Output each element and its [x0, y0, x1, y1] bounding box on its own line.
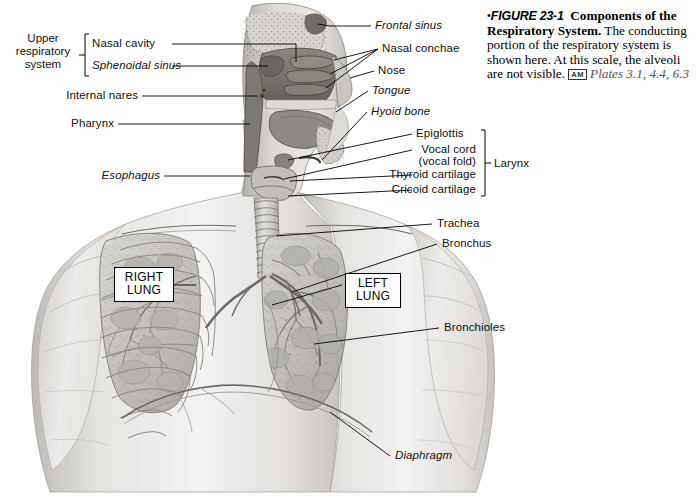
label-tongue: Tongue — [372, 84, 411, 97]
label-frontal-sinus: Frontal sinus — [375, 19, 442, 32]
label-nasal-conchae: Nasal conchae — [382, 42, 459, 55]
label-vocal-fold: (vocal fold) — [396, 155, 476, 168]
group-label-larynx: Larynx — [494, 157, 529, 170]
label-trachea: Trachea — [437, 217, 479, 230]
label-sphenoidal-sinus: Sphenoidal sinus — [92, 59, 181, 72]
label-hyoid-bone: Hyoid bone — [371, 105, 430, 118]
label-epiglottis: Epiglottis — [416, 127, 464, 140]
label-nasal-cavity: Nasal cavity — [92, 37, 155, 50]
am-badge: AM — [568, 69, 586, 80]
upper-respiratory-system-line3: system — [10, 58, 76, 71]
figure-number: FIGURE 23-1 — [491, 9, 564, 23]
label-pharynx: Pharynx — [20, 117, 114, 130]
right-lung-line2: LUNG — [121, 284, 167, 297]
group-label-upper-respiratory-system: Upper respiratory system — [10, 32, 76, 71]
label-bronchus: Bronchus — [442, 237, 491, 250]
label-internal-nares: Internal nares — [20, 89, 138, 102]
label-nose: Nose — [378, 64, 405, 77]
left-lung-line2: LUNG — [352, 290, 394, 303]
figure-plates: Plates 3.1, 4.4, 6.3 — [590, 66, 689, 81]
callout-right-lung: RIGHT LUNG — [114, 267, 174, 302]
label-esophagus: Esophagus — [60, 169, 160, 182]
upper-respiratory-system-line2: respiratory — [10, 45, 76, 58]
label-cricoid-cartilage: Cricoid cartilage — [376, 183, 476, 196]
upper-respiratory-system-line1: Upper — [10, 32, 76, 45]
figure-23-1: Upper respiratory system Nasal cavity Sp… — [0, 0, 696, 499]
figure-caption: •FIGURE 23-1 Components of the Respirato… — [487, 8, 689, 82]
label-bronchioles: Bronchioles — [444, 321, 505, 334]
callout-left-lung: LEFT LUNG — [345, 273, 401, 308]
label-thyroid-cartilage: Thyroid cartilage — [376, 168, 476, 181]
label-diaphragm: Diaphragm — [395, 449, 452, 462]
